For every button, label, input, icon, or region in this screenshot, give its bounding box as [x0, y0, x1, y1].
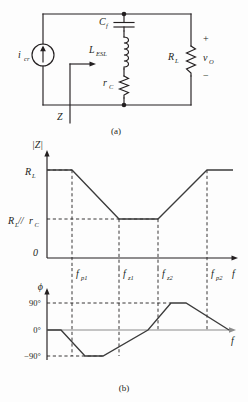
esr-label-sub: C	[109, 83, 114, 90]
circuit-diagram: i cr C f L ESL r C	[18, 12, 214, 136]
xtick-fp2-text: f	[211, 268, 215, 279]
figure-svg-wrapper: i cr C f L ESL r C	[0, 0, 248, 402]
magnitude-y-axis-label: |Z|	[32, 139, 43, 150]
ytick-par-r2: r	[29, 215, 33, 226]
ytick-par-op: //	[17, 215, 25, 226]
resistor-esr-icon	[120, 76, 129, 98]
inductor-label-sub: ESL	[95, 50, 107, 57]
phase-ytick-0: 0°	[33, 325, 41, 335]
magnitude-x-axis-arrow	[232, 255, 239, 260]
magnitude-curve	[47, 170, 233, 219]
caption-a: (a)	[111, 126, 121, 136]
magnitude-x-axis-label: f	[232, 268, 236, 279]
esr-label-text: r	[103, 77, 107, 88]
ytick-rl-sub: L	[31, 172, 36, 179]
phase-y-axis-arrow	[44, 288, 49, 295]
xtick-fp1-sub: p1	[80, 274, 88, 281]
resistor-esr-label: r C	[103, 77, 114, 90]
magnitude-ytick-zero: 0	[33, 247, 38, 258]
ytick-rl-text: R	[24, 166, 31, 177]
capacitor-label-sub: f	[106, 22, 109, 29]
ytick-par-r1: R	[7, 215, 14, 226]
xtick-fz2-text: f	[162, 268, 166, 279]
output-label-sub: O	[209, 58, 214, 65]
resistor-load-icon	[187, 46, 196, 76]
phase-plot: ϕ 90° 0° −90° f	[24, 268, 236, 361]
xtick-fz1-text: f	[123, 268, 127, 279]
resistor-load-label: R L	[167, 51, 179, 64]
node-dot-bottom	[122, 103, 127, 108]
magnitude-ytick-rl: R L	[24, 166, 36, 179]
bode-plots: |Z| R L R L // r C 0	[7, 139, 238, 393]
output-voltage-label: + v O −	[203, 33, 214, 81]
output-label-text: v	[203, 52, 208, 63]
inductor-label-text: L	[88, 44, 95, 55]
magnitude-y-axis-arrow	[44, 150, 49, 157]
caption-b: (b)	[119, 383, 130, 393]
ytick-par-r2-sub: C	[35, 221, 40, 228]
phase-x-axis-arrow	[229, 327, 236, 333]
load-label-text: R	[167, 51, 174, 62]
phase-y-axis-label: ϕ	[38, 281, 43, 292]
magnitude-plot: |Z| R L R L // r C 0	[7, 139, 238, 281]
figure-container: i cr C f L ESL r C	[0, 0, 248, 402]
polarity-plus: +	[203, 33, 209, 44]
source-label-text: i	[18, 49, 21, 60]
inductor-icon	[124, 37, 129, 69]
source-label-sub: cr	[24, 55, 30, 62]
phase-ytick-m90: −90°	[24, 351, 41, 361]
magnitude-ytick-rl-par-rc: R L // r C	[7, 215, 40, 228]
polarity-minus: −	[203, 70, 209, 81]
magnitude-xtick-fz2: f z2	[162, 268, 174, 281]
impedance-label-text: Z	[57, 111, 63, 122]
capacitor-label-text: C	[99, 16, 106, 27]
phase-x-axis-label: f	[231, 335, 235, 346]
capacitor-label: C f	[99, 16, 109, 29]
inductor-label: L ESL	[88, 44, 107, 57]
current-source-label: i cr	[18, 49, 30, 62]
current-source-icon	[32, 44, 54, 66]
xtick-fp1-text: f	[76, 268, 80, 279]
xtick-fp2-sub: p2	[215, 274, 223, 281]
xtick-fz2-sub: z2	[166, 274, 174, 281]
xtick-fz1-sub: z1	[127, 274, 134, 281]
capacitor-icon	[114, 14, 134, 31]
magnitude-xtick-fz1: f z1	[123, 268, 134, 281]
phase-ytick-p90: 90°	[29, 298, 41, 308]
magnitude-xtick-fp1: f p1	[76, 268, 88, 281]
load-label-sub: L	[174, 57, 179, 64]
magnitude-xtick-fp2: f p2	[211, 268, 223, 281]
impedance-arrow-icon	[70, 61, 96, 123]
